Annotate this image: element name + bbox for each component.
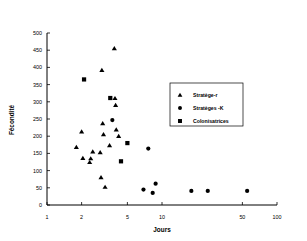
y-tick-label: 400 [33, 64, 42, 70]
scatter-plot-figure: 050100150200250300350400450500 125105010… [0, 0, 307, 241]
data-point-circle [154, 182, 158, 186]
y-tick-label: 150 [33, 150, 42, 156]
x-axis-tick-labels: 1251050100 [46, 214, 282, 220]
data-point-triangle [113, 103, 118, 107]
y-tick-label: 250 [33, 116, 42, 122]
data-point-square [125, 141, 129, 145]
x-tick-label: 50 [239, 214, 245, 220]
y-tick-label: 200 [33, 133, 42, 139]
y-tick-label: 100 [33, 168, 42, 174]
y-tick-label: 450 [33, 47, 42, 53]
y-tick-label: 350 [33, 82, 42, 88]
y-tick-label: 500 [33, 30, 42, 36]
legend-label: Colonisatrices [193, 118, 229, 124]
y-tick-label: 0 [39, 202, 42, 208]
legend: Stratège-rStratèges -KColonisatrices [170, 83, 243, 126]
series-circle [110, 118, 249, 195]
data-point-triangle [103, 185, 108, 189]
x-tick-label: 10 [159, 214, 165, 220]
data-point-triangle [107, 143, 112, 147]
data-point-circle [189, 189, 193, 193]
data-point-triangle [100, 121, 105, 125]
data-point-triangle [112, 46, 117, 50]
data-point-triangle [90, 149, 95, 153]
series-square [82, 77, 130, 163]
legend-marker-square [178, 119, 182, 123]
data-point-triangle [98, 175, 103, 179]
data-point-circle [245, 189, 249, 193]
data-point-triangle [116, 134, 121, 138]
data-point-triangle [88, 156, 93, 160]
legend-label: Stratège-r [193, 92, 218, 98]
x-axis-title: Jours [153, 226, 171, 233]
data-point-circle [110, 118, 114, 122]
data-point-triangle [79, 129, 84, 133]
series-triangle [74, 46, 121, 189]
legend-label: Stratèges -K [193, 105, 224, 111]
data-point-square [108, 96, 112, 100]
x-tick-label: 5 [126, 214, 129, 220]
data-point-triangle [98, 150, 103, 154]
legend-marker-circle [178, 106, 182, 110]
y-tick-label: 50 [36, 185, 42, 191]
data-point-triangle [74, 145, 79, 149]
data-point-triangle [99, 68, 104, 72]
data-point-circle [141, 187, 145, 191]
x-tick-label: 100 [273, 214, 282, 220]
x-tick-label: 2 [80, 214, 83, 220]
data-point-circle [206, 189, 210, 193]
data-point-triangle [114, 127, 119, 131]
data-point-triangle [87, 160, 92, 164]
data-point-triangle [112, 96, 117, 100]
y-axis-title: Fécondité [8, 104, 15, 135]
y-axis-tick-labels: 050100150200250300350400450500 [33, 30, 42, 208]
data-point-circle [151, 191, 155, 195]
y-tick-label: 300 [33, 99, 42, 105]
data-point-square [82, 77, 86, 81]
data-point-square [119, 159, 123, 163]
data-point-triangle [80, 156, 85, 160]
x-tick-label: 1 [46, 214, 49, 220]
data-point-circle [146, 146, 150, 150]
plot-canvas: 050100150200250300350400450500 125105010… [0, 0, 307, 241]
data-point-triangle [101, 132, 106, 136]
